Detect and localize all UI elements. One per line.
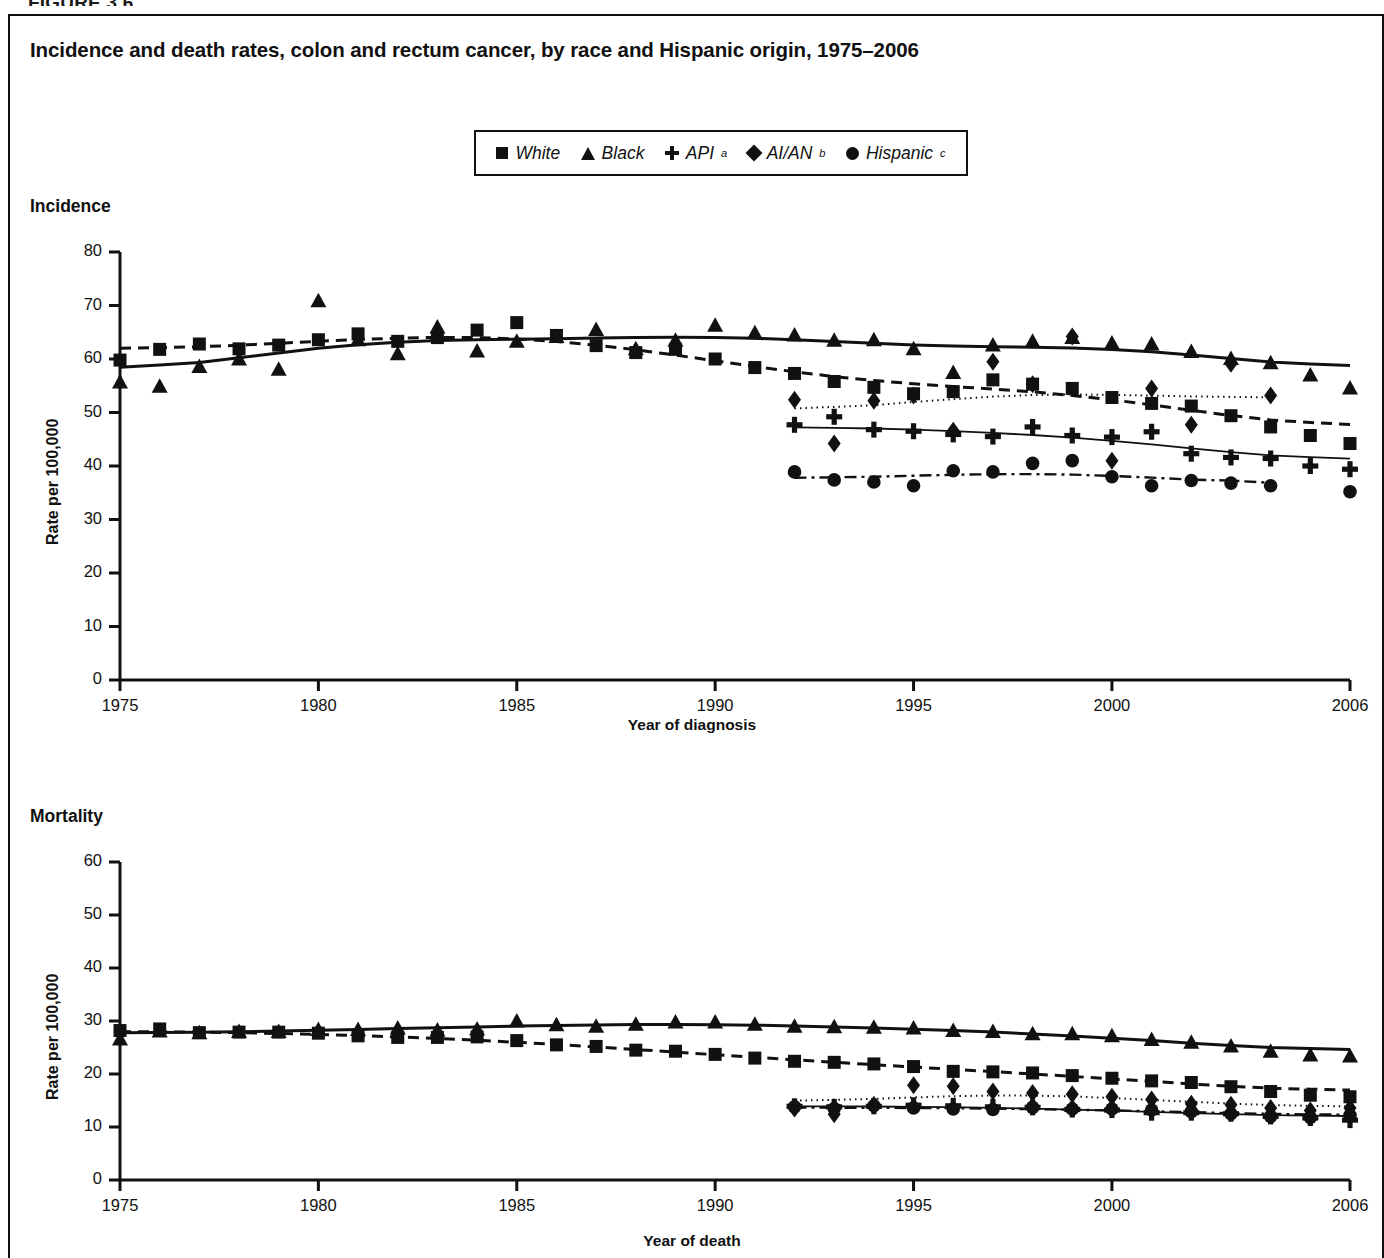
legend-item-api: APIa (665, 143, 727, 164)
mortality-y-tick-40: 40 (52, 957, 102, 976)
legend-label-black: Black (602, 143, 645, 164)
mortality-y-tick-50: 50 (52, 904, 102, 923)
mortality-x-tick-1980: 1980 (291, 1196, 345, 1215)
mortality-x-tick-1995: 1995 (887, 1196, 941, 1215)
incidence-x-tick-1980: 1980 (291, 696, 345, 715)
incidence-x-tick-1990: 1990 (688, 696, 742, 715)
incidence-y-tick-10: 10 (52, 616, 102, 635)
legend-label-hispanic: Hispanic (866, 143, 933, 164)
mortality-x-tick-2006: 2006 (1323, 1196, 1377, 1215)
mortality-y-tick-60: 60 (52, 851, 102, 870)
legend-item-hispanic: Hispanicc (846, 143, 946, 164)
panel-label-incidence: Incidence (30, 196, 111, 217)
mortality-y-tick-30: 30 (52, 1010, 102, 1029)
figure-number: FIGURE 3.6 (28, 0, 133, 6)
incidence-y-tick-20: 20 (52, 562, 102, 581)
triangle-marker-icon (581, 147, 595, 160)
figure-title: Incidence and death rates, colon and rec… (30, 38, 919, 62)
legend-footnote-hispanic: c (940, 147, 946, 159)
legend-item-white: White (496, 143, 560, 164)
incidence-y-tick-30: 30 (52, 509, 102, 528)
legend-label-api: API (686, 143, 714, 164)
plus-marker-icon (665, 146, 679, 160)
incidence-x-tick-2000: 2000 (1085, 696, 1139, 715)
series-markers-ai-an (788, 328, 1277, 470)
incidence-x-tick-1985: 1985 (490, 696, 544, 715)
mortality-x-tick-1985: 1985 (490, 1196, 544, 1215)
mortality-x-tick-2000: 2000 (1085, 1196, 1139, 1215)
incidence-x-tick-1995: 1995 (887, 696, 941, 715)
legend-item-black: Black (581, 143, 645, 164)
incidence-y-tick-70: 70 (52, 295, 102, 314)
mortality-y-tick-0: 0 (52, 1169, 102, 1188)
square-marker-icon (496, 147, 508, 159)
mortality-chart-plot (0, 840, 1384, 1200)
mortality-y-tick-20: 20 (52, 1063, 102, 1082)
mortality-x-tick-1990: 1990 (688, 1196, 742, 1215)
series-markers-white (114, 1022, 1357, 1103)
incidence-x-tick-1975: 1975 (93, 696, 147, 715)
mortality-x-tick-1975: 1975 (93, 1196, 147, 1215)
incidence-y-tick-0: 0 (52, 669, 102, 688)
series-markers-white (114, 316, 1357, 450)
legend-footnote-api: a (721, 147, 727, 159)
legend-label-aian: AI/AN (767, 143, 813, 164)
panel-label-mortality: Mortality (30, 806, 103, 827)
legend-footnote-aian: b (819, 147, 825, 159)
incidence-x-tick-2006: 2006 (1323, 696, 1377, 715)
incidence-x-axis-title: Year of diagnosis (0, 716, 1384, 734)
incidence-y-tick-40: 40 (52, 455, 102, 474)
incidence-y-tick-50: 50 (52, 402, 102, 421)
chart-legend: White Black APIa AI/ANb Hispanicc (474, 130, 968, 176)
series-markers-black (112, 293, 1358, 395)
incidence-y-tick-60: 60 (52, 348, 102, 367)
incidence-chart-plot (0, 230, 1384, 700)
figure-page: FIGURE 3.6 Incidence and death rates, co… (0, 0, 1384, 1258)
legend-item-aian: AI/ANb (748, 143, 826, 164)
mortality-y-tick-10: 10 (52, 1116, 102, 1135)
diamond-marker-icon (745, 145, 762, 162)
incidence-y-tick-80: 80 (52, 241, 102, 260)
legend-label-white: White (515, 143, 560, 164)
mortality-x-axis-title: Year of death (0, 1232, 1384, 1250)
circle-marker-icon (846, 147, 859, 160)
